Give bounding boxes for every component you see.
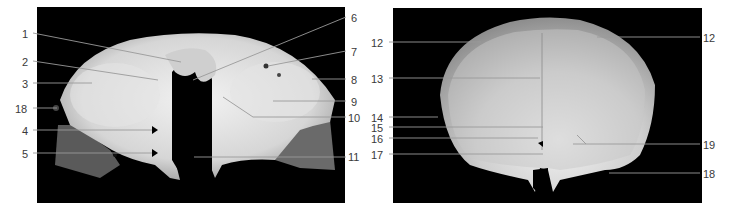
label-12-right: 12 [703, 32, 715, 44]
label-2: 2 [22, 56, 28, 68]
label-19: 19 [703, 139, 715, 151]
label-1: 1 [22, 28, 28, 40]
label-13: 13 [371, 73, 383, 85]
label-5: 5 [22, 148, 28, 160]
label-4: 4 [22, 125, 28, 137]
frontal-bone-internal-view [440, 17, 655, 195]
label-7: 7 [351, 46, 357, 58]
label-12-left: 12 [371, 37, 383, 49]
label-17: 17 [371, 149, 383, 161]
label-6: 6 [351, 12, 357, 24]
label-3: 3 [22, 78, 28, 90]
label-10: 10 [348, 112, 360, 124]
label-8: 8 [351, 74, 357, 86]
label-9: 9 [351, 96, 357, 108]
bone-illustration [0, 0, 735, 213]
label-16: 16 [371, 133, 383, 145]
frontal-bone-inferior-view [53, 33, 335, 180]
label-18-left: 18 [15, 103, 27, 115]
label-11: 11 [348, 151, 359, 163]
label-18-right: 18 [703, 168, 715, 180]
